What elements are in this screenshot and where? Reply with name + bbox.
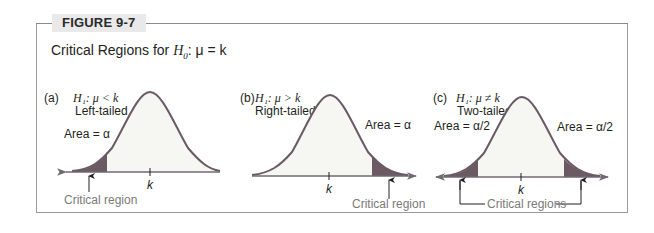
panel-c-k-label: k xyxy=(518,183,525,197)
panel-b-k-label: k xyxy=(326,182,333,196)
panel-b-critical-shade xyxy=(372,157,408,176)
panel-c-critical-label: Critical regions xyxy=(487,197,566,211)
panel-b-critical-label: Critical region xyxy=(352,197,425,211)
panel-a-critical-shade xyxy=(72,152,107,172)
panel-c-bracket-left xyxy=(460,181,485,204)
panel-a: (a) H₁: μ < k Left-tailed k Area = α Cri… xyxy=(44,91,220,207)
panel-a-hypothesis: H₁: μ < k xyxy=(72,91,119,105)
panel-b-hypothesis: H₁: μ > k xyxy=(254,91,301,105)
panel-b: (b) H₁: μ > k Right-tailed k Area = α Cr… xyxy=(240,91,425,211)
panel-a-tail: Left-tailed xyxy=(75,104,128,118)
panel-b-letter: (b) xyxy=(240,91,255,105)
figure-diagram: (a) H₁: μ < k Left-tailed k Area = α Cri… xyxy=(0,0,654,233)
panel-c-hypothesis: H₁: μ ≠ k xyxy=(455,91,500,105)
panel-c-area-label-right: Area = α/2 xyxy=(557,120,613,134)
panel-b-tail: Right-tailed xyxy=(255,104,316,118)
panel-c-letter: (c) xyxy=(433,91,447,105)
panel-c: (c) H₁: μ ≠ k Two-tailed k Area = α/2 Ar… xyxy=(433,91,613,211)
panel-a-critical-label: Critical region xyxy=(64,193,137,207)
panel-b-area-label: Area = α xyxy=(365,118,411,132)
panel-c-area-label-left: Area = α/2 xyxy=(434,119,490,133)
panel-a-area-label: Area = α xyxy=(64,127,110,141)
panel-a-letter: (a) xyxy=(44,91,59,105)
panel-a-k-label: k xyxy=(147,178,154,192)
